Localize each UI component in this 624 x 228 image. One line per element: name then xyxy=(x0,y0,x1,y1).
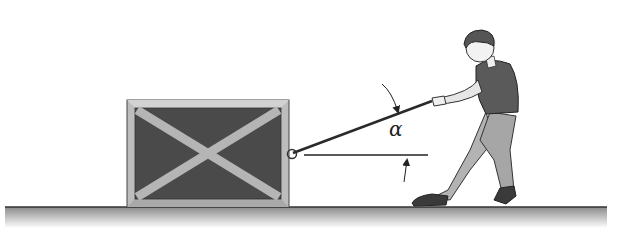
angle-arrow-lower-icon xyxy=(404,160,407,182)
angle-arrow-upper-icon xyxy=(382,84,398,112)
crate xyxy=(127,100,289,207)
pulling-crate-diagram: α xyxy=(0,0,624,228)
angle-alpha-label: α xyxy=(389,117,403,141)
rope xyxy=(293,101,432,153)
floor xyxy=(5,207,607,228)
person-pulling xyxy=(412,30,518,206)
